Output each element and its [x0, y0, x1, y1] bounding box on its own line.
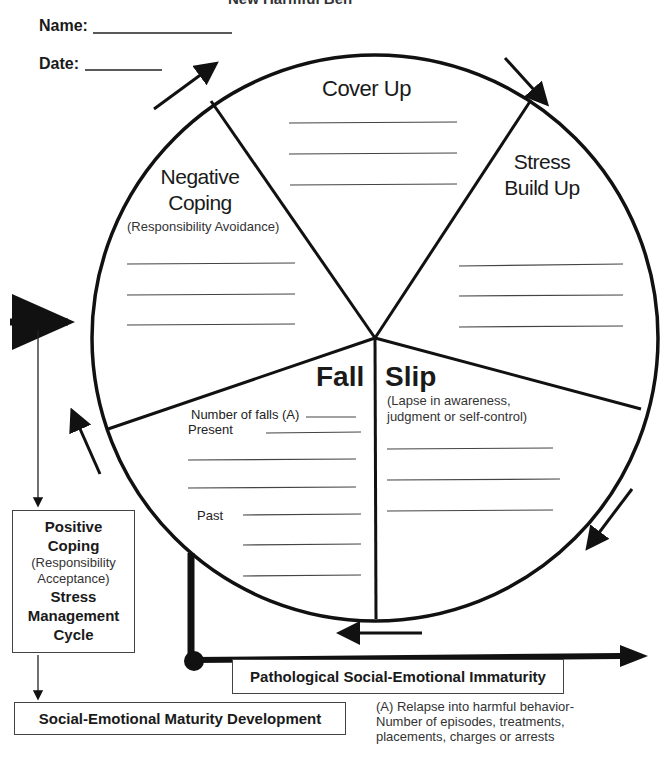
negative-coping-lines	[127, 263, 295, 325]
fall-lines	[188, 417, 361, 576]
segment-title-cover-up: Cover Up	[322, 76, 411, 102]
pathological-immaturity-box: Pathological Social-Emotional Immaturity	[232, 659, 564, 694]
negative-coping-subtitle: (Responsibility Avoidance)	[127, 219, 279, 234]
past-label: Past	[197, 508, 223, 523]
positive-line1: Positive	[13, 517, 134, 536]
arrow-down-right-icon	[505, 58, 545, 102]
name-label: Name:	[39, 17, 88, 35]
positive-line3: (Responsibility	[13, 555, 134, 571]
slip-subtitle: (Lapse in awareness, judgment or self-co…	[387, 393, 527, 425]
positive-coping-box: Positive Coping (Responsibility Acceptan…	[12, 510, 135, 653]
positive-line6: Management	[13, 606, 134, 625]
positive-line7: Cycle	[13, 625, 134, 644]
positive-line4: Acceptance)	[13, 571, 134, 587]
cover-up-lines	[289, 122, 457, 185]
arrow-up-right-icon	[154, 65, 214, 109]
stress-title-line1: Stress	[499, 149, 585, 175]
stress-title-line2: Build Up	[499, 175, 585, 201]
negative-title-line2: Coping	[155, 190, 245, 216]
arrow-up-left-icon	[73, 413, 100, 474]
date-label: Date:	[39, 55, 79, 73]
segment-title-negative-coping: Negative Coping	[155, 164, 245, 216]
maturity-development-box: Social-Emotional Maturity Development	[14, 702, 346, 735]
present-label: Present	[188, 422, 233, 437]
slip-lines	[387, 448, 560, 511]
segment-title-stress-build-up: Stress Build Up	[499, 149, 585, 201]
stress-lines	[459, 264, 623, 327]
negative-title-line1: Negative	[155, 164, 245, 190]
positive-line2: Coping	[13, 536, 134, 555]
footnote: (A) Relapse into harmful behavior- Numbe…	[376, 699, 616, 744]
positive-line5: Stress	[13, 587, 134, 606]
number-of-falls-label: Number of falls (A)	[191, 407, 299, 422]
slip-subtitle-line1: (Lapse in awareness,	[387, 393, 527, 409]
slip-subtitle-line2: judgment or self-control)	[387, 409, 527, 425]
segment-title-slip: Slip	[385, 361, 436, 393]
segment-title-fall: Fall	[316, 361, 364, 393]
